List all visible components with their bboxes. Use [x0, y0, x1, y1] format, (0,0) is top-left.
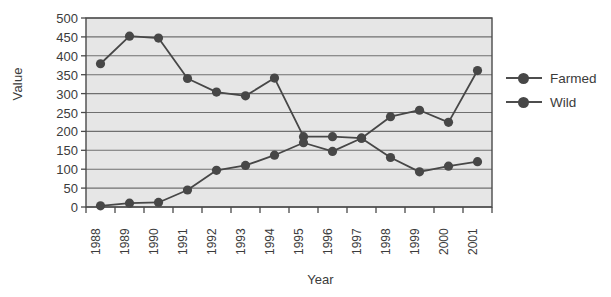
data-point-wild	[270, 74, 279, 83]
data-point-farmed	[328, 147, 337, 156]
line-chart: Value 500450400350300250200150100500 198…	[0, 0, 611, 297]
data-point-farmed	[270, 151, 279, 160]
data-point-wild	[183, 74, 192, 83]
data-point-farmed	[183, 185, 192, 194]
legend-item-farmed: Farmed	[506, 66, 597, 90]
legend-marker-farmed	[506, 72, 542, 84]
data-point-farmed	[386, 112, 395, 121]
data-point-wild	[241, 91, 250, 100]
data-point-farmed	[415, 106, 424, 115]
data-point-wild	[96, 59, 105, 68]
data-point-farmed	[473, 66, 482, 75]
data-point-wild	[444, 162, 453, 171]
data-point-wild	[125, 32, 134, 41]
legend-label-farmed: Farmed	[550, 71, 597, 86]
data-point-wild	[328, 132, 337, 141]
data-point-farmed	[444, 118, 453, 127]
data-point-farmed	[96, 201, 105, 210]
data-point-farmed	[212, 166, 221, 175]
data-point-wild	[473, 157, 482, 166]
x-axis-title-text: Year	[307, 272, 333, 287]
data-point-wild	[415, 167, 424, 176]
legend-marker-wild	[506, 96, 542, 108]
data-point-wild	[299, 132, 308, 141]
data-point-wild	[154, 33, 163, 42]
plot-area	[0, 0, 611, 297]
chart-legend: Farmed Wild	[506, 66, 597, 114]
data-point-farmed	[125, 199, 134, 208]
data-point-wild	[212, 87, 221, 96]
x-axis-title: Year	[0, 272, 611, 287]
legend-label-wild: Wild	[550, 95, 576, 110]
data-point-wild	[357, 134, 366, 143]
data-point-farmed	[241, 161, 250, 170]
legend-item-wild: Wild	[506, 90, 597, 114]
data-point-wild	[386, 153, 395, 162]
data-point-farmed	[154, 198, 163, 207]
